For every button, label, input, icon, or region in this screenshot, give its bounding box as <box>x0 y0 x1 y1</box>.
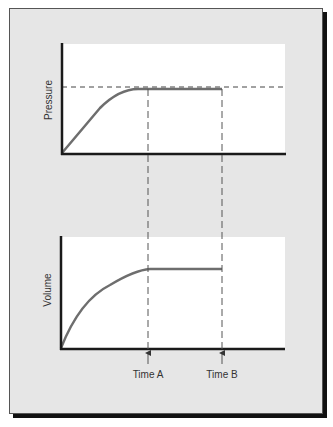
pressure-plot-area <box>62 44 285 154</box>
pressure-volume-diagram: Pressure Volume Time A Time B <box>0 0 333 427</box>
time-b-label: Time B <box>206 369 238 380</box>
pressure-chart: Pressure <box>43 43 286 155</box>
volume-plot-area <box>61 237 285 349</box>
pressure-y-label: Pressure <box>43 80 54 120</box>
time-a-label: Time A <box>133 369 164 380</box>
volume-chart: Volume <box>42 236 285 350</box>
volume-y-label: Volume <box>42 273 53 307</box>
